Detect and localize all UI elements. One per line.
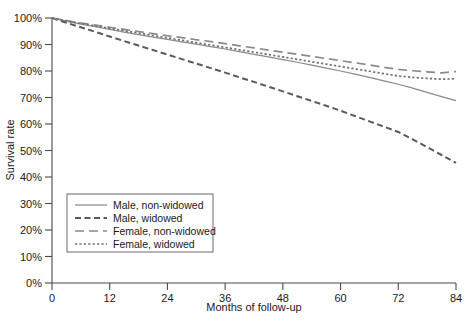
legend-label-2: Female, non-widowed xyxy=(113,225,216,237)
y-tick-label: 40% xyxy=(20,171,42,183)
series-line-0 xyxy=(52,18,456,101)
y-tick-label: 60% xyxy=(20,118,42,130)
series-line-2 xyxy=(52,18,456,73)
y-tick-label: 0% xyxy=(26,277,42,289)
x-tick-label: 72 xyxy=(392,292,404,304)
series-lines xyxy=(52,18,456,163)
y-tick-label: 10% xyxy=(20,251,42,263)
x-tick-label: 84 xyxy=(450,292,462,304)
series-line-1 xyxy=(52,18,456,163)
legend-label-3: Female, widowed xyxy=(113,238,195,250)
x-tick-label: 24 xyxy=(161,292,173,304)
chart-canvas: 0%10%20%30%40%50%60%70%80%90%100% 012243… xyxy=(0,0,475,321)
y-tick-label: 90% xyxy=(20,39,42,51)
y-tick-label: 80% xyxy=(20,65,42,77)
legend-label-1: Male, widowed xyxy=(113,212,183,224)
y-tick-label: 50% xyxy=(20,145,42,157)
legend-label-0: Male, non-widowed xyxy=(113,199,204,211)
y-tick-label: 100% xyxy=(14,12,42,24)
y-axis-title: Survival rate xyxy=(4,119,16,180)
x-axis-title: Months of follow-up xyxy=(206,301,301,313)
x-tick-label: 0 xyxy=(49,292,55,304)
y-tick-label: 20% xyxy=(20,224,42,236)
chart-legend: Male, non-widowedMale, widowedFemale, no… xyxy=(67,194,216,252)
y-tick-label: 30% xyxy=(20,198,42,210)
x-tick-label: 12 xyxy=(104,292,116,304)
y-tick-label: 70% xyxy=(20,92,42,104)
x-tick-label: 60 xyxy=(334,292,346,304)
survival-chart: 0%10%20%30%40%50%60%70%80%90%100% 012243… xyxy=(0,0,475,321)
y-axis-ticks: 0%10%20%30%40%50%60%70%80%90%100% xyxy=(14,12,52,289)
